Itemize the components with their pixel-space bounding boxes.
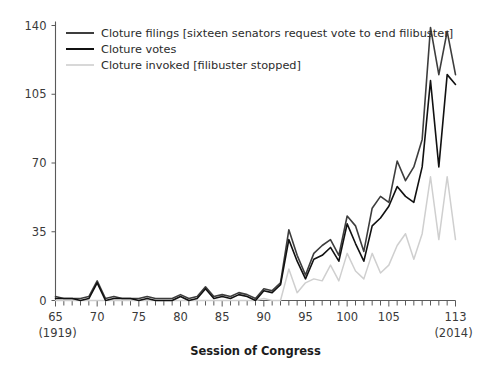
x-tick-label: 85 (215, 310, 230, 324)
series-line-2 (56, 177, 456, 301)
legend-label-2: Cloture invoked [filibuster stopped] (101, 59, 301, 72)
legend-label-0: Cloture filings [sixteen senators reques… (101, 27, 453, 40)
x-tick-label: 105 (378, 310, 400, 324)
cloture-line-chart: 0357010514065707580859095100105113(1919)… (0, 0, 492, 365)
x-axis-end-year: (2014) (434, 326, 472, 340)
legend-label-1: Cloture votes (101, 43, 176, 56)
x-tick-label: 100 (336, 310, 358, 324)
x-tick-label: 90 (257, 310, 272, 324)
y-tick-label: 35 (32, 225, 47, 239)
series-line-1 (56, 75, 456, 301)
x-tick-label: 80 (173, 310, 188, 324)
x-tick-label: 75 (132, 310, 147, 324)
y-tick-label: 105 (25, 87, 47, 101)
x-axis-start-year: (1919) (38, 326, 76, 340)
x-axis-title: Session of Congress (190, 344, 321, 358)
y-tick-label: 140 (25, 19, 47, 33)
chart-canvas: 0357010514065707580859095100105113(1919)… (0, 0, 492, 365)
x-tick-label: 70 (90, 310, 105, 324)
x-tick-label: 113 (445, 310, 467, 324)
x-tick-label: 95 (298, 310, 313, 324)
y-tick-label: 70 (32, 156, 47, 170)
x-tick-label: 65 (48, 310, 63, 324)
y-tick-label: 0 (39, 294, 46, 308)
